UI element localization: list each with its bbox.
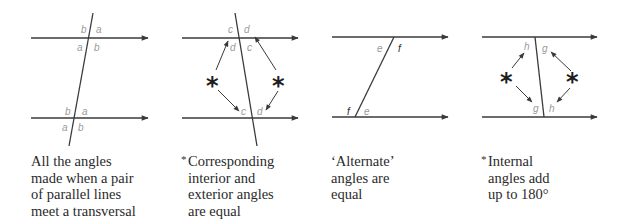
- angle-label: b: [65, 106, 71, 117]
- caption-line: equal: [331, 186, 395, 203]
- angle-label: f: [347, 106, 351, 117]
- caption-line: meet a transversal: [31, 203, 136, 220]
- pointer-arrow: [218, 90, 239, 111]
- angle-label: a: [77, 42, 83, 53]
- caption-line: All the angles: [31, 153, 136, 170]
- transversal-segment: [355, 37, 394, 117]
- diagram-all-angles: b a a b b a a b: [31, 13, 148, 146]
- angle-label: c: [247, 42, 252, 53]
- diagram-internal-angles: h g g h * *: [482, 37, 597, 117]
- angle-label: e: [364, 106, 370, 117]
- asterisk-marker-right: *: [272, 72, 285, 100]
- pointer-arrow: [551, 52, 571, 71]
- caption-line: up to 180°: [488, 186, 550, 203]
- angle-label: d: [244, 24, 250, 35]
- caption-line: ‘Alternate’: [331, 153, 395, 170]
- caption-line: exterior angles: [188, 186, 274, 203]
- angle-label: d: [257, 106, 263, 117]
- angle-label: h: [549, 103, 555, 114]
- pointer-arrow: [516, 86, 532, 102]
- angle-label: b: [94, 42, 100, 53]
- caption-alternate-angles: ‘Alternate’ angles are equal: [331, 153, 395, 203]
- asterisk-marker-left: *: [206, 72, 219, 100]
- caption-all-angles: All the angles made when a pair of paral…: [31, 153, 136, 219]
- angle-label: a: [96, 24, 102, 35]
- asterisk-marker-left: *: [500, 68, 513, 96]
- angle-label: b: [81, 24, 87, 35]
- caption-line: Corresponding: [188, 153, 274, 170]
- angle-label: d: [230, 42, 236, 53]
- diagram-corresponding-angles: c d d c c d * *: [182, 13, 298, 146]
- angle-label: f: [398, 43, 402, 54]
- angle-label: e: [377, 43, 383, 54]
- caption-line: Internal: [488, 153, 550, 170]
- angle-label: c: [241, 106, 246, 117]
- caption-line: are equal: [188, 203, 274, 220]
- pointer-arrow: [216, 41, 228, 70]
- caption-corresponding-angles: * Corresponding interior and exterior an…: [188, 153, 274, 219]
- caption-line: made when a pair: [31, 170, 136, 187]
- angle-label: c: [228, 24, 233, 35]
- caption-line: of parallel lines: [31, 186, 136, 203]
- pointer-arrow: [255, 37, 276, 70]
- angle-label: h: [524, 41, 530, 52]
- pointer-arrow: [512, 53, 524, 68]
- caption-line: angles add: [488, 170, 550, 187]
- angle-label: g: [542, 43, 548, 54]
- angle-label: b: [78, 122, 84, 133]
- caption-line: interior and: [188, 170, 274, 187]
- angle-label: a: [62, 122, 68, 133]
- caption-asterisk: *: [481, 151, 487, 168]
- angle-label: g: [533, 103, 539, 114]
- caption-internal-angles: * Internal angles add up to 180°: [488, 153, 550, 203]
- angle-label: a: [82, 106, 88, 117]
- caption-asterisk: *: [181, 151, 187, 168]
- asterisk-marker-right: *: [566, 68, 579, 96]
- diagram-alternate-angles: e f f e: [332, 37, 448, 117]
- caption-line: angles are: [331, 170, 395, 187]
